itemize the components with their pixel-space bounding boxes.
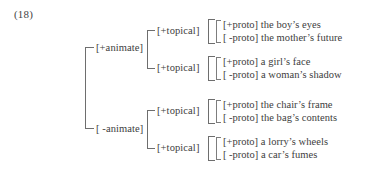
leaf-line-4-proto-positive: [+proto] a lorry’s wheels xyxy=(223,136,328,147)
leaf-bracket-outer-3 xyxy=(208,99,215,124)
leaf-line-4-proto-negative: [ -proto] a car’s fumes xyxy=(223,149,317,160)
branch-bracket-animate-negative xyxy=(147,110,155,149)
leaf-line-1-proto-positive: [+proto] the boy’s eyes xyxy=(223,19,321,30)
leaf-text: a car’s fumes xyxy=(261,149,317,160)
leaf-text: a girl’s face xyxy=(261,56,311,67)
leaf-feature: [+proto] xyxy=(223,56,258,67)
node-label-animate-negative: [ -animate] xyxy=(96,123,143,134)
leaf-text: a woman’s shadow xyxy=(261,69,342,80)
leaf-bracket-inner-2 xyxy=(216,57,221,80)
leaf-line-1-proto-negative: [ -proto] the mother’s future xyxy=(223,32,342,43)
leaf-feature: [ -proto] xyxy=(223,112,258,123)
leaf-feature: [+proto] xyxy=(223,99,258,110)
leaf-feature: [ -proto] xyxy=(223,32,258,43)
leaf-text: the bag’s contents xyxy=(261,112,337,123)
leaf-feature: [+proto] xyxy=(223,136,258,147)
feature-tree-figure: (18) [+animate] [+topical] [+proto] the … xyxy=(0,0,371,173)
root-bracket xyxy=(85,47,94,129)
branch-bracket-animate-positive xyxy=(147,30,155,69)
leaf-bracket-inner-1 xyxy=(216,20,221,43)
example-number: (18) xyxy=(14,8,33,20)
leaf-bracket-outer-1 xyxy=(208,19,215,44)
node-label-topical-3: [+topical] xyxy=(157,105,200,116)
leaf-text: the boy’s eyes xyxy=(261,19,321,30)
leaf-text: a lorry’s wheels xyxy=(261,136,328,147)
leaf-line-3-proto-negative: [ -proto] the bag’s contents xyxy=(223,112,337,123)
node-label-topical-2: [+topical] xyxy=(157,62,200,73)
leaf-bracket-inner-4 xyxy=(216,137,221,160)
leaf-bracket-outer-4 xyxy=(208,136,215,161)
leaf-text: the mother’s future xyxy=(261,32,342,43)
leaf-feature: [ -proto] xyxy=(223,69,258,80)
node-label-topical-4: [+topical] xyxy=(157,142,200,153)
leaf-line-2-proto-positive: [+proto] a girl’s face xyxy=(223,56,310,67)
leaf-bracket-outer-2 xyxy=(208,56,215,81)
node-label-topical-1: [+topical] xyxy=(157,25,200,36)
leaf-text: the chair’s frame xyxy=(261,99,333,110)
leaf-feature: [+proto] xyxy=(223,19,258,30)
leaf-line-2-proto-negative: [ -proto] a woman’s shadow xyxy=(223,69,342,80)
leaf-line-3-proto-positive: [+proto] the chair’s frame xyxy=(223,99,333,110)
leaf-feature: [ -proto] xyxy=(223,149,258,160)
leaf-bracket-inner-3 xyxy=(216,100,221,123)
node-label-animate-positive: [+animate] xyxy=(96,42,143,53)
